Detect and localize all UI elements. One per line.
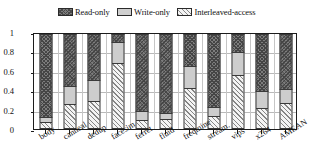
bar-segment-write-only xyxy=(232,52,245,76)
bar-segment-read-only xyxy=(184,34,197,66)
stacked-bar[interactable] xyxy=(280,34,293,129)
y-axis-tick-mark xyxy=(31,131,35,132)
y-axis-tick-label: 0.2 xyxy=(0,106,14,116)
bar-slot xyxy=(250,34,274,129)
read-only-swatch-icon xyxy=(58,8,73,16)
bar-segment-write-only xyxy=(64,86,77,104)
stacked-bar[interactable] xyxy=(40,34,53,129)
legend-item-interleaved-access: Interleaved-access xyxy=(177,7,255,17)
y-axis-tick-label: 0.4 xyxy=(0,86,14,96)
y-axis-tick-label: 1 xyxy=(0,28,14,38)
bar-segment-read-only xyxy=(88,34,101,80)
bar-segment-write-only xyxy=(208,107,221,116)
bar-segment-write-only xyxy=(256,91,269,108)
legend-label-write-only: Write-only xyxy=(134,7,170,17)
chart-legend: Read-only Write-only Interleaved-access xyxy=(0,7,313,17)
bar-segment-write-only xyxy=(88,80,101,101)
stacked-bar[interactable] xyxy=(88,34,101,129)
legend-item-read-only: Read-only xyxy=(58,7,110,17)
y-axis-tick-label: 0.6 xyxy=(0,67,14,77)
stacked-bar[interactable] xyxy=(208,34,221,129)
bar-segment-read-only xyxy=(160,34,173,113)
bar-segment-read-only xyxy=(112,34,125,42)
bar-segment-read-only xyxy=(40,34,53,117)
interleaved-access-swatch-icon xyxy=(177,8,192,16)
legend-label-read-only: Read-only xyxy=(75,7,110,17)
legend-item-write-only: Write-only xyxy=(117,7,170,17)
write-only-swatch-icon xyxy=(117,8,132,16)
bar-segment-read-only xyxy=(208,34,221,107)
bar-segment-interleaved-access xyxy=(232,75,245,129)
stacked-bar[interactable] xyxy=(256,34,269,129)
bar-segment-interleaved-access xyxy=(112,63,125,129)
legend-label-interleaved-access: Interleaved-access xyxy=(195,7,256,17)
bar-segment-write-only xyxy=(112,42,125,63)
stacked-bar[interactable] xyxy=(112,34,125,129)
bar-slot xyxy=(226,34,250,129)
bar-slot xyxy=(178,34,202,129)
bar-segment-write-only xyxy=(136,111,149,120)
y-axis-tick-label: 0.8 xyxy=(0,47,14,57)
bar-segment-read-only xyxy=(136,34,149,111)
stacked-bar[interactable] xyxy=(184,34,197,129)
bar-slot xyxy=(154,34,178,129)
stacked-bar[interactable] xyxy=(232,34,245,129)
bar-segment-read-only xyxy=(64,34,77,86)
bar-slot xyxy=(106,34,130,129)
bar-slot xyxy=(130,34,154,129)
bar-segment-read-only xyxy=(256,34,269,91)
stacked-bar[interactable] xyxy=(64,34,77,129)
stacked-bar[interactable] xyxy=(160,34,173,129)
bar-segment-read-only xyxy=(280,34,293,89)
chart-figure: Read-only Write-only Interleaved-access … xyxy=(0,0,313,168)
bar-slot xyxy=(202,34,226,129)
plot-area xyxy=(33,33,297,130)
bar-segment-read-only xyxy=(232,34,245,52)
bar-slot xyxy=(82,34,106,129)
bar-segment-write-only xyxy=(184,66,197,88)
stacked-bar[interactable] xyxy=(136,34,149,129)
bar-slot xyxy=(58,34,82,129)
y-axis-tick-label: 0 xyxy=(0,125,14,135)
bar-slot xyxy=(274,34,298,129)
bar-slot xyxy=(34,34,58,129)
bar-segment-interleaved-access xyxy=(184,88,197,129)
bar-segment-write-only xyxy=(280,89,293,103)
